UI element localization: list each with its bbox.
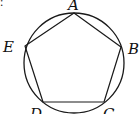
vertex-label-e: E xyxy=(2,38,14,56)
corner-fragment: : xyxy=(0,0,3,9)
circumscribed-circle xyxy=(24,13,124,113)
vertex-label-a: A xyxy=(66,0,79,14)
pentagon-diagram: : A B C D E xyxy=(0,0,139,114)
vertex-label-c: C xyxy=(103,105,115,114)
vertex-label-d: D xyxy=(29,105,42,114)
vertex-label-b: B xyxy=(127,40,139,58)
